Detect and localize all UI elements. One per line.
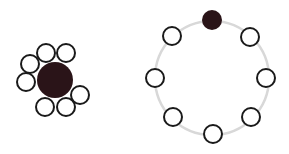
central-node bbox=[37, 62, 73, 98]
ring-node bbox=[257, 69, 275, 87]
ring-node bbox=[241, 28, 259, 46]
satellite-node bbox=[17, 73, 35, 91]
ring-node bbox=[163, 27, 181, 45]
ring-node bbox=[242, 108, 260, 126]
satellite-node bbox=[21, 55, 39, 73]
ring-node bbox=[146, 69, 164, 87]
ring-group bbox=[146, 10, 275, 143]
satellite-node bbox=[36, 98, 54, 116]
clustered-group bbox=[17, 44, 89, 116]
ring-node bbox=[204, 125, 222, 143]
ring-highlight-node bbox=[202, 10, 222, 30]
satellite-node bbox=[37, 44, 55, 62]
ring-node bbox=[164, 108, 182, 126]
diagram-canvas bbox=[0, 0, 289, 154]
satellite-node bbox=[57, 44, 75, 62]
satellite-node bbox=[71, 86, 89, 104]
